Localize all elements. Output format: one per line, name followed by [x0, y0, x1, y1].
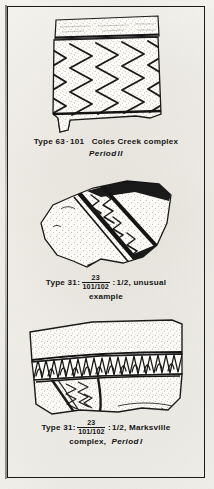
sherd-lower-body [34, 374, 182, 416]
caption-type-number-2: 101 [70, 137, 84, 146]
fraction-denominator: 101/102 [82, 282, 110, 291]
sherd-illustration-zigzag-incised [40, 10, 172, 136]
figure-caption-2: Type 31:23101/102:1/2, unusual example [8, 275, 204, 303]
caption-complex: Coles Creek complex [92, 137, 179, 146]
figure-caption-3: Type 31:23101/102:1/2, Marksville comple… [8, 420, 204, 448]
caption-type-label: Type [34, 137, 53, 146]
plate-page: Type 63·101 Coles Creek complex PeriodII [0, 0, 214, 489]
caption-fraction: 23101/102 [82, 275, 110, 291]
caption-type-number: 31 [63, 423, 73, 432]
caption-type-label: Type [41, 423, 60, 432]
caption-period-label: Period [111, 437, 139, 446]
figure-caption-1: Type 63·101 Coles Creek complex PeriodII [8, 136, 204, 159]
figure-block-2: Type 31:23101/102:1/2, unusual example [8, 175, 204, 303]
sherd-rim-band [55, 16, 159, 39]
caption-line-type: Type 63·101 Coles Creek complex [8, 136, 204, 148]
caption-type-number: 31 [68, 278, 78, 287]
caption-line-complex: complex, PeriodI [8, 436, 204, 448]
caption-period-label: Period [89, 149, 117, 158]
fraction-denominator: 101/102 [77, 427, 105, 436]
caption-line-main: Type 31:23101/102:1/2, Marksville [8, 420, 204, 436]
fraction-numerator: 23 [82, 275, 110, 283]
caption-type-label: Type [46, 278, 65, 287]
figure-block-3: Type 31:23101/102:1/2, Marksville comple… [8, 316, 204, 448]
caption-complex-1: , Marksville [124, 423, 171, 432]
caption-note-1: , unusual [128, 278, 166, 287]
caption-line-note: example [8, 291, 204, 303]
caption-period-numeral: II [117, 149, 124, 158]
caption-line-period: PeriodII [8, 148, 204, 160]
caption-colon: : [73, 423, 76, 432]
caption-colon: : [77, 278, 80, 287]
sherd-body [46, 37, 168, 132]
sherd-illustration-hatched-band [22, 316, 190, 420]
caption-type-number: 63 [55, 137, 65, 146]
caption-ratio: 1/2 [112, 423, 124, 432]
caption-complex-2: complex, [69, 437, 106, 446]
caption-period-numeral: I [139, 437, 143, 446]
caption-ratio: 1/2 [116, 278, 128, 287]
caption-line-main: Type 31:23101/102:1/2, unusual [8, 275, 204, 291]
figure-block-1: Type 63·101 Coles Creek complex PeriodII [8, 10, 204, 159]
caption-fraction: 23101/102 [77, 420, 105, 436]
sherd-illustration-banded-zigzag [31, 175, 181, 275]
fraction-numerator: 23 [77, 420, 105, 428]
